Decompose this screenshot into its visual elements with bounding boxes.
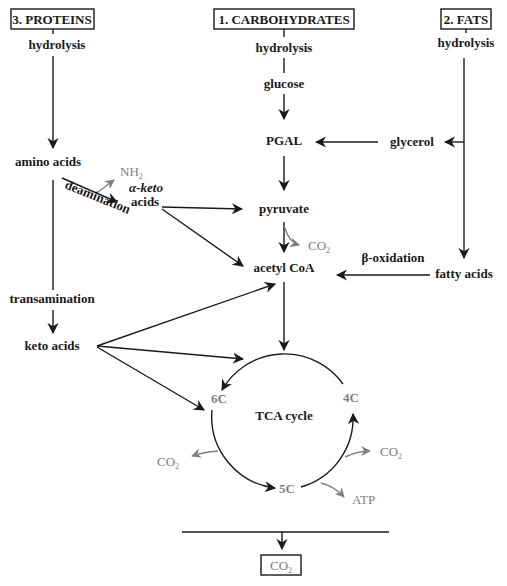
hydrolysis-proteins-label: hydrolysis: [29, 37, 86, 52]
hydrolysis-fats-label: hydrolysis: [438, 35, 495, 50]
alpha-keto-acids-label: acids: [131, 194, 159, 209]
arc-right: [301, 414, 353, 487]
arrow-co2-left: [192, 451, 218, 456]
arrow-keto-to-acetyl-coa: [97, 284, 275, 346]
fatty-acids-label: fatty acids: [435, 266, 492, 281]
beta-oxidation-label: β-oxidation: [361, 250, 425, 265]
atp-label: ATP: [352, 492, 375, 507]
pyruvate-label: pyruvate: [259, 201, 309, 216]
arrow-keto-to-tca: [97, 346, 243, 359]
transamination-label: transamination: [9, 291, 95, 306]
svg-text:1. CARBOHYDRATES: 1. CARBOHYDRATES: [218, 12, 349, 27]
pgal-label: PGAL: [266, 133, 302, 148]
deamination-label: deamination: [63, 177, 134, 217]
arrow-atp: [321, 483, 344, 497]
amino-acids-label: amino acids: [15, 154, 81, 169]
diagram-canvas: 3. PROTEINS 1. CARBOHYDRATES 2. FATS hyd…: [0, 0, 507, 586]
arrow-alpha-keto-to-pyruvate: [162, 207, 242, 209]
hydrolysis-carbs-label: hydrolysis: [256, 40, 313, 55]
arrow-co2-right: [345, 451, 370, 457]
co2-left-label: CO2: [157, 454, 179, 471]
svg-text:3. PROTEINS: 3. PROTEINS: [12, 12, 91, 27]
4c-label: 4C: [343, 390, 359, 405]
tca-cycle: TCA cycle 6C 4C 5C: [211, 354, 359, 496]
5c-label: 5C: [279, 481, 295, 496]
tca-cycle-label: TCA cycle: [255, 408, 313, 423]
glycerol-label: glycerol: [390, 134, 434, 149]
arrow-alpha-keto-to-acetyl-coa: [162, 209, 243, 266]
svg-text:2. FATS: 2. FATS: [444, 12, 488, 27]
carbohydrates-box: 1. CARBOHYDRATES: [214, 9, 354, 29]
fats-box: 2. FATS: [441, 9, 491, 29]
proteins-box: 3. PROTEINS: [11, 9, 94, 29]
alpha-keto-label: α-keto: [129, 180, 163, 195]
final-co2-box: CO2: [261, 555, 301, 575]
acetyl-coa-label: acetyl CoA: [253, 260, 315, 275]
arrow-co2-release: [285, 228, 299, 245]
glucose-label: glucose: [264, 76, 305, 91]
nh2-label: NH2: [120, 164, 143, 181]
co2-pyruvate-label: CO2: [308, 238, 330, 255]
metabolism-diagram: 3. PROTEINS 1. CARBOHYDRATES 2. FATS hyd…: [0, 0, 507, 586]
6c-label: 6C: [211, 391, 227, 406]
co2-right-label: CO2: [380, 444, 402, 461]
arrow-keto-to-6c: [97, 347, 204, 410]
keto-acids-label: keto acids: [24, 338, 79, 353]
